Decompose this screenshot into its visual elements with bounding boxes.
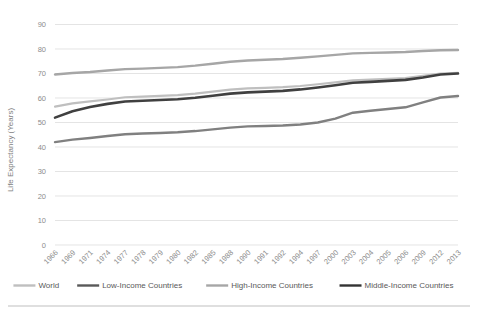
y-axis-tick-label: 0: [42, 241, 46, 250]
y-axis-tick-label: 20: [38, 192, 46, 201]
legend-label-middle-income-countries: Middle-Income Countries: [365, 281, 454, 290]
legend-label-high-income-countries: High-Income Countries: [231, 281, 313, 290]
y-axis-tick-label: 10: [38, 216, 46, 225]
y-axis-tick-label: 30: [38, 167, 46, 176]
legend-label-world: World: [38, 281, 59, 290]
svg-text:Life Expectancy (Years): Life Expectancy (Years): [6, 108, 15, 193]
chart-container: 0102030405060708090 19661969197119741977…: [0, 0, 478, 321]
y-axis-tick-label: 50: [38, 118, 46, 127]
life-expectancy-line-chart: 0102030405060708090 19661969197119741977…: [0, 0, 478, 321]
y-axis-tick-label: 40: [38, 143, 46, 152]
y-axis-tick-label: 90: [38, 20, 46, 29]
plot-background: [0, 0, 478, 321]
y-axis-tick-label: 80: [38, 45, 46, 54]
y-axis-tick-label: 60: [38, 94, 46, 103]
y-axis-tick-label: 70: [38, 69, 46, 78]
y-axis-title: Life Expectancy (Years): [6, 108, 15, 193]
legend-label-low-income-countries: Low-Income Countries: [102, 281, 182, 290]
